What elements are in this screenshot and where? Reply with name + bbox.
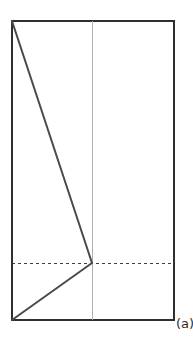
folding-diagram [0, 0, 193, 337]
figure-panel: (a) [0, 0, 193, 337]
panel-label: (a) [176, 316, 193, 332]
sheet-outline-rect [12, 21, 174, 320]
